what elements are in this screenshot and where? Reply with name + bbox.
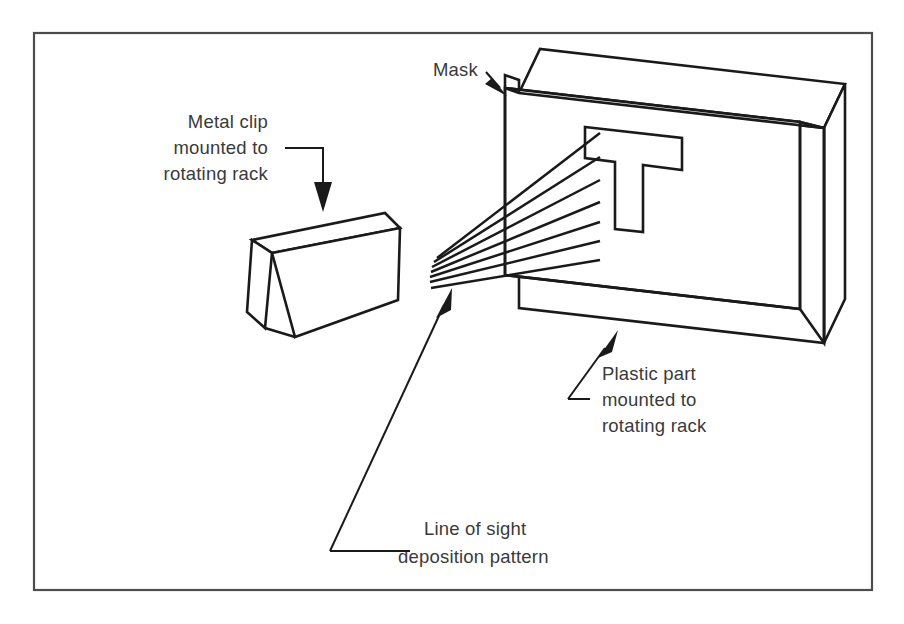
plastic-part-annotation: Plastic part mounted to rotating rack — [568, 330, 707, 436]
plastic-part-leader-line — [568, 348, 605, 399]
line-of-sight-annotation: Line of sight deposition pattern — [330, 288, 549, 567]
metal-clip-label-line3: rotating rack — [164, 163, 269, 184]
line-of-sight-arrowhead-icon — [436, 288, 452, 318]
diagram-canvas: Mask Metal clip mounted to rotating rack… — [0, 0, 904, 624]
metal-clip-left-face — [247, 240, 272, 328]
metal-clip-arrowhead-icon — [314, 182, 332, 212]
line-of-sight-label-line1: Line of sight — [424, 518, 526, 539]
metal-clip-label-line1: Metal clip — [188, 111, 268, 132]
metal-clip-annotation: Metal clip mounted to rotating rack — [164, 111, 332, 212]
plastic-part-right-face — [824, 84, 845, 343]
plastic-part-label-line3: rotating rack — [602, 415, 707, 436]
metal-clip-bottom-edge — [265, 328, 295, 337]
plastic-part-label-line1: Plastic part — [602, 363, 696, 384]
plastic-part-label-line2: mounted to — [602, 389, 697, 410]
deposition-diagram-figure: Mask Metal clip mounted to rotating rack… — [0, 0, 904, 624]
metal-clip-label-line2: mounted to — [173, 137, 268, 158]
mask-label: Mask — [433, 59, 479, 80]
line-of-sight-label-line2: deposition pattern — [398, 546, 549, 567]
metal-clip — [247, 213, 400, 337]
mask-annotation: Mask — [433, 59, 507, 96]
line-of-sight-leader-line — [330, 305, 444, 551]
